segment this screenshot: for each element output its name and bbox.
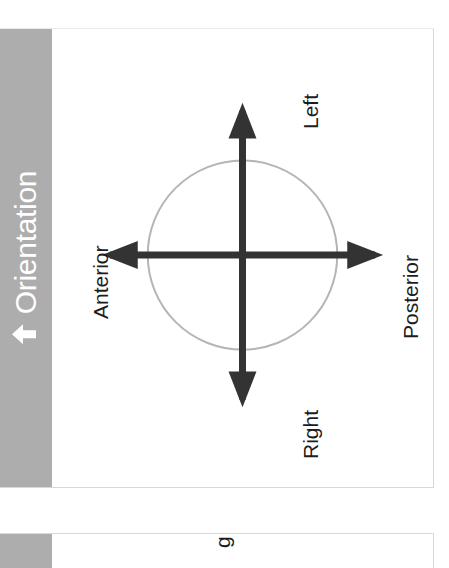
arrowhead-up (229, 103, 257, 139)
second-panel: g (0, 533, 434, 568)
app-window: Orientation Left Right Anterior Poster (0, 0, 449, 568)
arrow-up-icon[interactable] (11, 323, 41, 345)
orientation-section-title: Orientation (11, 171, 41, 314)
orientation-header-content: Orientation (11, 171, 41, 345)
arrowhead-right (347, 241, 383, 269)
axis-label-posterior: Posterior (400, 255, 421, 339)
arrowhead-down (229, 372, 257, 408)
orientation-panel: Orientation Left Right Anterior Poster (0, 28, 434, 488)
axis-label-anterior: Anterior (90, 245, 111, 319)
second-panel-section-header[interactable] (0, 534, 52, 568)
axis-label-left: Left (300, 94, 321, 129)
axis-label-right: Right (300, 410, 321, 459)
second-panel-content: g (52, 534, 433, 568)
clipped-label-text: g (212, 536, 233, 548)
orientation-diagram: Left Right Anterior Posterior (52, 29, 433, 487)
orientation-section-header[interactable]: Orientation (0, 29, 52, 487)
